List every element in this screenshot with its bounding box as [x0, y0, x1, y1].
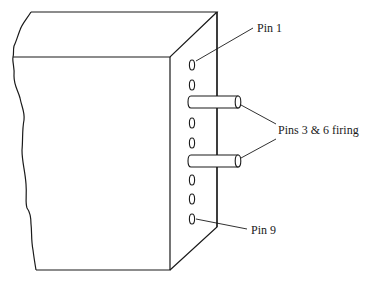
pin-hole-5 — [189, 138, 194, 148]
label-pin-9: Pin 9 — [251, 224, 276, 236]
label-pins-firing: Pins 3 & 6 firing — [278, 124, 359, 136]
firing-pin-3 — [188, 96, 241, 108]
pin-hole-9 — [189, 214, 194, 224]
pin-hole-2 — [189, 80, 194, 90]
pin-hole-4 — [189, 118, 194, 128]
block-broken-edge — [13, 12, 36, 270]
leader-pin6 — [241, 139, 276, 158]
leader-pin9 — [196, 219, 247, 229]
pin-hole-8 — [189, 194, 194, 204]
leader-pin3 — [241, 105, 276, 124]
leader-pin1 — [196, 28, 253, 61]
block-front-face — [36, 57, 170, 270]
print-head-diagram — [0, 0, 369, 284]
label-pin-1: Pin 1 — [257, 22, 282, 34]
block-top-face — [13, 12, 217, 57]
pin-hole-7 — [189, 175, 194, 185]
pin-hole-1 — [189, 60, 194, 70]
firing-pin-6 — [188, 155, 241, 167]
